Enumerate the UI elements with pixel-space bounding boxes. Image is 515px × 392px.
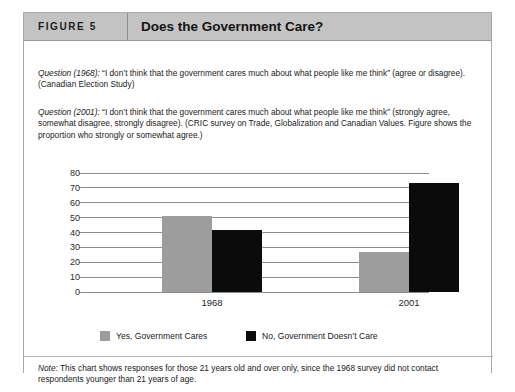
y-axis-label-0: 0 xyxy=(75,287,80,297)
y-tick-20 xyxy=(79,262,86,263)
y-tick-40 xyxy=(79,232,86,233)
question-2001-text: “I don’t think that the government cares… xyxy=(38,107,471,140)
y-tick-70 xyxy=(79,187,86,188)
question-2001: Question (2001): “I don’t think that the… xyxy=(38,107,480,141)
y-tick-80 xyxy=(79,173,86,174)
bar-2001-series1 xyxy=(409,183,459,292)
bar-chart: 0102030405060708019682001 xyxy=(24,173,493,323)
figure-header: FIGURE 5 Does the Government Care? xyxy=(24,13,491,41)
legend-swatch-0 xyxy=(100,331,110,341)
x-axis-label-2001: 2001 xyxy=(398,297,419,308)
question-1968: Question (1968): “I don’t think that the… xyxy=(38,68,480,91)
x-axis-label-1968: 1968 xyxy=(201,297,222,308)
y-tick-0 xyxy=(79,292,86,293)
note-text: This chart shows responses for those 21 … xyxy=(38,363,438,384)
note-separator xyxy=(24,356,493,357)
y-tick-10 xyxy=(79,277,86,278)
legend-label-0: Yes, Government Cares xyxy=(116,331,207,341)
figure-body: Question (1968): “I don’t think that the… xyxy=(24,41,491,373)
gridline-80 xyxy=(86,173,429,174)
note-label: Note: xyxy=(38,363,58,373)
y-axis-label-10: 10 xyxy=(70,272,80,282)
bar-1968-series1 xyxy=(212,230,262,292)
legend-label-1: No, Government Doesn’t Care xyxy=(262,331,378,341)
chart-legend: Yes, Government CaresNo, Government Does… xyxy=(24,331,493,347)
figure-number-label: FIGURE 5 xyxy=(24,13,128,40)
question-1968-text: “I don’t think that the government cares… xyxy=(38,68,465,89)
y-tick-30 xyxy=(79,247,86,248)
figure-note: Note: This chart shows responses for tho… xyxy=(38,363,480,385)
y-axis-label-80: 80 xyxy=(70,168,80,178)
legend-swatch-1 xyxy=(246,331,256,341)
question-1968-label: Question (1968): xyxy=(38,68,100,78)
y-axis-label-70: 70 xyxy=(70,183,80,193)
legend-item-0: Yes, Government Cares xyxy=(100,331,207,341)
bar-2001-series0 xyxy=(359,252,409,292)
y-axis-label-40: 40 xyxy=(70,228,80,238)
gridline-70 xyxy=(86,187,429,188)
figure-container: FIGURE 5 Does the Government Care? Quest… xyxy=(23,12,492,373)
y-tick-60 xyxy=(79,202,86,203)
y-tick-50 xyxy=(79,217,86,218)
y-axis-label-50: 50 xyxy=(70,213,80,223)
gridline-50 xyxy=(86,217,429,218)
y-axis-label-30: 30 xyxy=(70,242,80,252)
plot-area: 0102030405060708019682001 xyxy=(86,173,429,292)
y-axis-label-20: 20 xyxy=(70,257,80,267)
bar-1968-series0 xyxy=(162,216,212,292)
question-2001-label: Question (2001): xyxy=(38,107,100,117)
y-axis-label-60: 60 xyxy=(70,198,80,208)
figure-title: Does the Government Care? xyxy=(128,13,491,40)
gridline-60 xyxy=(86,202,429,203)
legend-item-1: No, Government Doesn’t Care xyxy=(246,331,378,341)
